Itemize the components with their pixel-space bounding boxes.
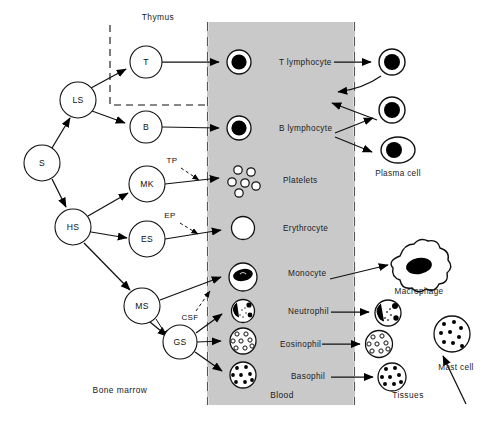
- label-CSF: CSF: [182, 313, 199, 322]
- cell-b-lymphocyte-tissue: [379, 97, 405, 123]
- label-b-lymphocyte: B lymphocyte: [279, 124, 332, 133]
- cell-mast-cell: [434, 316, 470, 352]
- cell-neutrophil-tissue: [375, 300, 401, 326]
- label-EP: EP: [164, 211, 175, 220]
- cell-neutrophil: [232, 300, 255, 323]
- label-macrophage: Macrophage: [394, 287, 443, 296]
- label-eosinophil: Eosinophil: [280, 340, 321, 349]
- label-monocyte: Monocyte: [288, 269, 326, 278]
- node-label-HS: HS: [67, 222, 79, 232]
- label-mast-cell: Mast cell: [438, 363, 473, 372]
- node-label-ES: ES: [141, 234, 153, 244]
- label-plasma-cell: Plasma cell: [375, 169, 421, 178]
- cell-basophil-tissue: [378, 363, 406, 391]
- label-blood: Blood: [270, 390, 294, 400]
- label-platelets: Platelets: [283, 176, 318, 185]
- label-basophil: Basophil: [291, 372, 325, 381]
- cell-t-lymphocyte: [227, 50, 251, 74]
- label-TP: TP: [167, 156, 178, 165]
- arrow-hs-to-mk: [88, 193, 128, 216]
- hematopoiesis-diagram: S LS HS T B MK ES MS GS TP EP CSF: [0, 0, 500, 424]
- cell-macrophage: [391, 240, 451, 292]
- tissue-cells: [366, 49, 471, 391]
- cell-b-lymphocyte: [227, 116, 251, 140]
- node-label-B: B: [143, 122, 149, 132]
- cell-t-lymphocyte-tissue: [379, 49, 405, 75]
- cell-plasma-cell: [381, 137, 415, 163]
- node-label-GS: GS: [174, 337, 187, 347]
- label-tissues: Tissues: [392, 390, 424, 400]
- node-label-S: S: [39, 158, 45, 168]
- label-t-lymphocyte: T lymphocyte: [279, 58, 332, 67]
- cell-erythrocyte: [232, 217, 255, 240]
- growth-factor-arrows: [180, 168, 210, 311]
- label-thymus: Thymus: [142, 12, 174, 22]
- arrow-ep: [180, 223, 198, 234]
- arrow-ls-to-b: [92, 111, 125, 123]
- arrow-ls-to-t: [91, 69, 126, 88]
- figure-canvas: S LS HS T B MK ES MS GS TP EP CSF: [0, 0, 500, 424]
- arrow-hs-to-es: [91, 232, 127, 238]
- cell-eosinophil-tissue: [366, 331, 393, 358]
- arrow-hs-to-ms: [84, 243, 130, 290]
- arrow-s-to-ls: [52, 118, 70, 148]
- node-label-MS: MS: [135, 301, 148, 311]
- label-neutrophil: Neutrophil: [288, 307, 329, 316]
- cell-eosinophil: [230, 328, 256, 354]
- arrow-s-to-hs: [52, 179, 66, 207]
- cell-basophil: [230, 362, 256, 388]
- cell-monocyte: [229, 263, 257, 291]
- node-label-LS: LS: [73, 95, 84, 105]
- arrow-tp: [181, 168, 199, 180]
- node-label-MK: MK: [140, 179, 153, 189]
- label-erythrocyte: Erythrocyte: [283, 224, 328, 233]
- label-bone-marrow: Bone marrow: [93, 385, 148, 395]
- node-label-T: T: [143, 57, 149, 67]
